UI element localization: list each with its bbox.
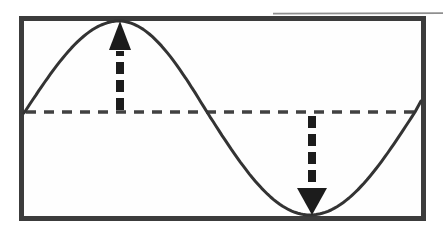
scan-artifact-line xyxy=(273,13,443,14)
frame-border xyxy=(22,19,424,219)
sine-wave-figure xyxy=(0,0,443,237)
diagram-canvas xyxy=(0,0,443,237)
